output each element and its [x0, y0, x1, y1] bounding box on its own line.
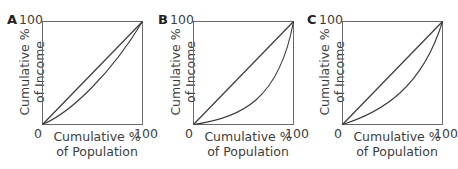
- x-axis-label: Cumulative % of Population: [352, 129, 442, 159]
- equality-line: [43, 22, 143, 125]
- x-axis-label: Cumulative % of Population: [52, 129, 142, 159]
- panel-b: B 100 Cumulative % of Income 0 100 Cumul…: [151, 0, 303, 169]
- panel-a: A 100 Cumulative % of Income 0 100 Cumul…: [0, 0, 152, 169]
- x-tick-left: 0: [185, 126, 193, 141]
- equality-line: [343, 22, 443, 125]
- x-tick-left: 0: [334, 126, 342, 141]
- x-axis-label: Cumulative % of Population: [203, 129, 293, 159]
- x-tick-left: 0: [34, 126, 42, 141]
- panel-c: C 100 Cumulative % of Income 0 100 Cumul…: [300, 0, 452, 169]
